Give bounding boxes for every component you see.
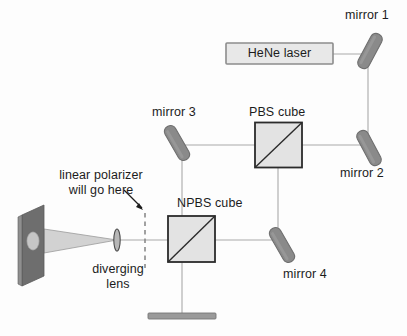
- diverging-beam-cone: [44, 229, 117, 253]
- mirror-3: [162, 124, 191, 163]
- diverging-lens-label-line-2: lens: [78, 277, 158, 291]
- pbs-cube-label: PBS cube: [249, 105, 305, 119]
- diverging-lens-label-line-1: diverging: [78, 262, 158, 276]
- beam-spot: [27, 232, 39, 250]
- mirror-1: [356, 31, 384, 70]
- polarizer-note-line-1: linear polarizer: [36, 168, 166, 182]
- diverging-lens: [114, 229, 120, 251]
- polarizer-note-line-2: will go here: [36, 183, 166, 197]
- mirror-4-label: mirror 4: [283, 267, 327, 281]
- screen-edge: [18, 215, 22, 286]
- projection-screen: [18, 205, 44, 286]
- mirror-1-label: mirror 1: [345, 8, 389, 22]
- beam-block: [148, 313, 216, 319]
- pbs-cube: [255, 123, 302, 168]
- hene-laser-label: HeNe laser: [226, 46, 333, 60]
- npbs-cube-label: NPBS cube: [177, 196, 243, 210]
- mirror-2: [355, 128, 383, 167]
- optics-diagram: HeNe laser mirror 1 mirror 2 mirror 3 mi…: [0, 0, 407, 336]
- mirror-3-label: mirror 3: [152, 105, 196, 119]
- npbs-cube: [168, 216, 215, 262]
- mirror-2-label: mirror 2: [340, 166, 384, 180]
- mirror-4: [267, 226, 296, 265]
